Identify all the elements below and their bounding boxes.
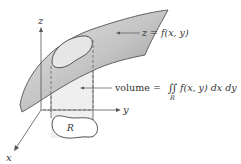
integral-subscript: R (169, 94, 175, 102)
x-axis-label: x (6, 152, 12, 163)
x-arrow-icon (14, 145, 19, 151)
surface-label: z = f(x, y) (141, 27, 189, 38)
volume-diagram: z y x R z = f(x, y) volume = ∬ f(x, y) d… (0, 0, 241, 164)
volume-prefix: volume = (114, 82, 161, 93)
y-arrow-icon (116, 108, 121, 112)
z-arrow-icon (39, 27, 43, 32)
z-axis-label: z (37, 15, 44, 26)
integrand: f(x, y) dx dy (179, 82, 237, 93)
region-label: R (66, 123, 74, 133)
y-axis-label: y (122, 104, 129, 115)
region-r (52, 116, 98, 138)
